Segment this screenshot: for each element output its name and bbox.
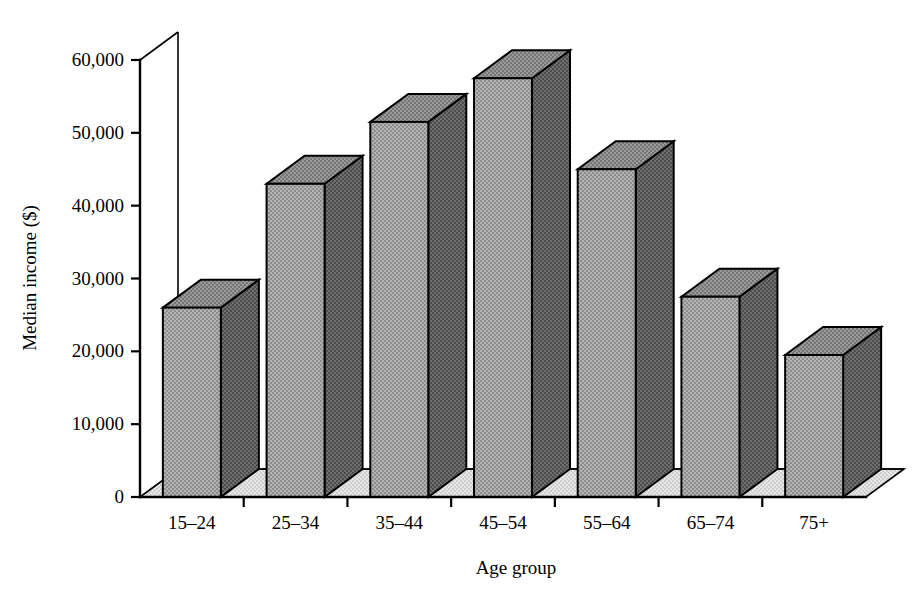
bar-column — [578, 141, 674, 497]
bars-group — [163, 50, 881, 497]
x-tick-label: 55–64 — [583, 512, 631, 533]
x-axis — [140, 497, 866, 507]
y-tick-label: 30,000 — [72, 268, 124, 289]
bar-column — [163, 280, 259, 497]
y-axis-title: Median income ($) — [19, 205, 41, 351]
y-tick-label: 60,000 — [72, 49, 124, 70]
x-tick-label: 65–74 — [687, 512, 735, 533]
chart-figure: 010,00020,00030,00040,00050,00060,000 15… — [0, 0, 924, 592]
x-tick-label: 75+ — [799, 512, 829, 533]
bar-column — [370, 94, 466, 497]
y-tick-label: 40,000 — [72, 195, 124, 216]
bar-column — [681, 269, 777, 497]
bar-column — [267, 156, 363, 497]
bar-column — [474, 50, 570, 497]
bar-column — [785, 327, 881, 497]
x-tick-label: 25–34 — [272, 512, 320, 533]
y-tick-label: 50,000 — [72, 122, 124, 143]
bar-chart-canvas: 010,00020,00030,00040,00050,00060,000 15… — [0, 0, 924, 592]
y-tick-label: 0 — [115, 486, 125, 507]
x-tick-labels: 15–2425–3435–4445–5455–6465–7475+ — [168, 512, 829, 533]
y-tick-label: 10,000 — [72, 413, 124, 434]
x-tick-label: 45–54 — [479, 512, 527, 533]
x-axis-title: Age group — [476, 557, 557, 578]
y-tick-label: 20,000 — [72, 340, 124, 361]
x-tick-label: 15–24 — [168, 512, 216, 533]
y-tick-labels: 010,00020,00030,00040,00050,00060,000 — [72, 49, 124, 507]
y-axis — [131, 60, 140, 497]
x-tick-label: 35–44 — [376, 512, 424, 533]
